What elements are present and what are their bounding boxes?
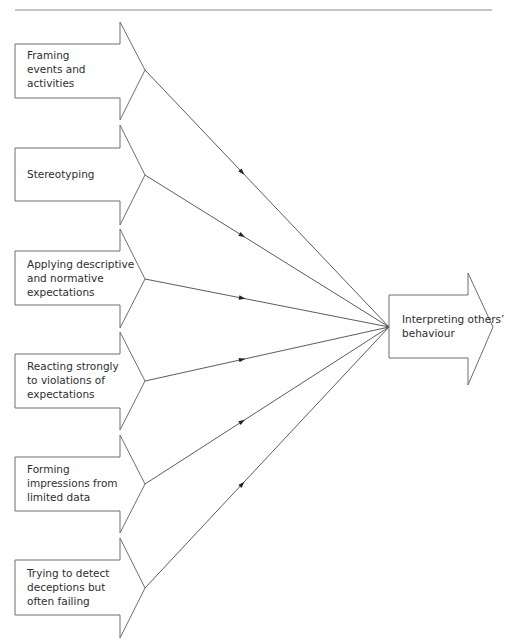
source-arrows — [15, 22, 145, 638]
source-label-forming: Forming impressions from limited data — [27, 462, 118, 504]
arrowhead-icon — [238, 232, 245, 237]
source-label-applying: Applying descriptive and normative expec… — [27, 257, 134, 299]
connector-line-applying — [145, 279, 389, 327]
connector-line-reacting — [145, 327, 389, 381]
connector-line-forming — [145, 327, 389, 484]
arrowhead-icon — [238, 420, 245, 425]
connector-line-stereotyping — [145, 175, 389, 327]
source-label-framing: Framing events and activities — [27, 48, 85, 90]
connector-line-framing — [145, 70, 389, 327]
arrowhead-icon — [239, 358, 246, 362]
target-label: Interpreting others’ behaviour — [402, 312, 504, 340]
source-label-trying: Trying to detect deceptions but often fa… — [27, 566, 109, 608]
source-label-reacting: Reacting strongly to violations of expec… — [27, 359, 119, 401]
connector-line-trying — [145, 327, 389, 588]
source-label-stereotyping: Stereotyping — [27, 167, 94, 181]
connector-lines — [145, 70, 389, 588]
